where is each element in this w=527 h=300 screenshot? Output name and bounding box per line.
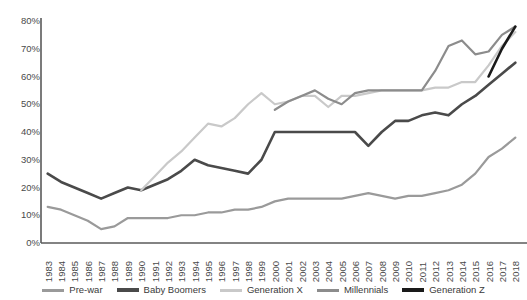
y-axis-tick-label: 10% [2,211,40,221]
x-axis-tick-label: 2003 [310,261,321,282]
x-axis-tick-label: 2012 [430,261,441,282]
chart-legend: Pre-warBaby BoomersGeneration XMillennia… [0,280,527,300]
x-axis-tick-label: 2002 [297,261,308,282]
legend-item-generation-z[interactable]: Generation Z [402,285,484,295]
y-axis-tick-label: 60% [2,72,40,82]
y-axis-tick-label: 30% [2,155,40,165]
x-axis-tick-label: 2018 [510,261,521,282]
series-line-generation-x [141,32,515,190]
y-axis-tick-label: 70% [2,44,40,54]
axis-lines [41,18,527,243]
x-axis-tick-label: 2006 [350,261,361,282]
x-axis-tick-label: 2005 [337,261,348,282]
legend-label: Millennials [344,285,388,295]
x-axis-tick-label: 2000 [270,261,281,282]
x-axis-tick-label: 1985 [69,261,80,282]
x-axis-tick-label: 1984 [56,261,67,282]
x-axis-tick-label: 2010 [403,261,414,282]
series-line-millennials [275,27,516,110]
x-axis-tick-label: 2004 [323,261,334,282]
x-axis-tick-label: 1995 [203,261,214,282]
x-axis-tick-label: 1990 [136,261,147,282]
legend-item-baby-boomers[interactable]: Baby Boomers [117,285,206,295]
legend-label: Generation Z [429,285,484,295]
legend-label: Pre-war [69,285,102,295]
legend-label: Generation X [247,285,303,295]
x-axis: 1983198419851986198719881989199019911992… [41,246,527,282]
legend-swatch-icon [117,288,139,292]
x-axis-tick-label: 2007 [363,261,374,282]
y-axis-tick-label: 80% [2,16,40,26]
x-axis-tick-label: 1987 [96,261,107,282]
x-axis-tick-label: 1986 [83,261,94,282]
series-lines [48,27,516,230]
x-axis-tick-label: 1983 [43,261,54,282]
legend-swatch-icon [220,289,242,292]
x-axis-tick-label: 2014 [457,261,468,282]
x-axis-tick-label: 1998 [243,261,254,282]
x-axis-tick-label: 1991 [150,261,161,282]
y-axis-tick-label: 50% [2,100,40,110]
x-axis-tick-label: 2011 [417,262,428,282]
line-chart: 0%10%20%30%40%50%60%70%80% 1983198419851… [0,0,527,300]
x-axis-tick-label: 2015 [470,261,481,282]
x-axis-tick-label: 1992 [163,261,174,282]
x-axis-tick-label: 2001 [283,261,294,282]
x-axis-tick-label: 1989 [123,261,134,282]
x-axis-tick-label: 1996 [216,261,227,282]
x-axis-tick-label: 2008 [377,261,388,282]
series-line-baby-boomers [48,63,516,199]
series-line-pre-war [48,138,516,230]
legend-item-millennials[interactable]: Millennials [317,285,388,295]
legend-swatch-icon [317,289,339,292]
x-axis-tick-label: 2009 [390,261,401,282]
x-axis-tick-label: 1988 [109,261,120,282]
x-axis-tick-label: 2017 [497,261,508,282]
x-axis-tick-label: 1993 [176,261,187,282]
y-axis-tick-label: 0% [2,238,40,248]
x-axis-tick-label: 1994 [190,261,201,282]
legend-item-pre-war[interactable]: Pre-war [42,285,102,295]
x-axis-tick-label: 1999 [256,261,267,282]
y-axis: 0%10%20%30%40%50%60%70%80% [0,0,40,260]
x-axis-tick-label: 2016 [484,261,495,282]
x-axis-tick-label: 2013 [444,261,455,282]
legend-swatch-icon [42,289,64,292]
y-axis-tick-label: 40% [2,127,40,137]
legend-label: Baby Boomers [144,285,206,295]
y-axis-tick-label: 20% [2,183,40,193]
legend-item-generation-x[interactable]: Generation X [220,285,303,295]
x-axis-tick-label: 1997 [230,261,241,282]
legend-swatch-icon [402,288,424,292]
